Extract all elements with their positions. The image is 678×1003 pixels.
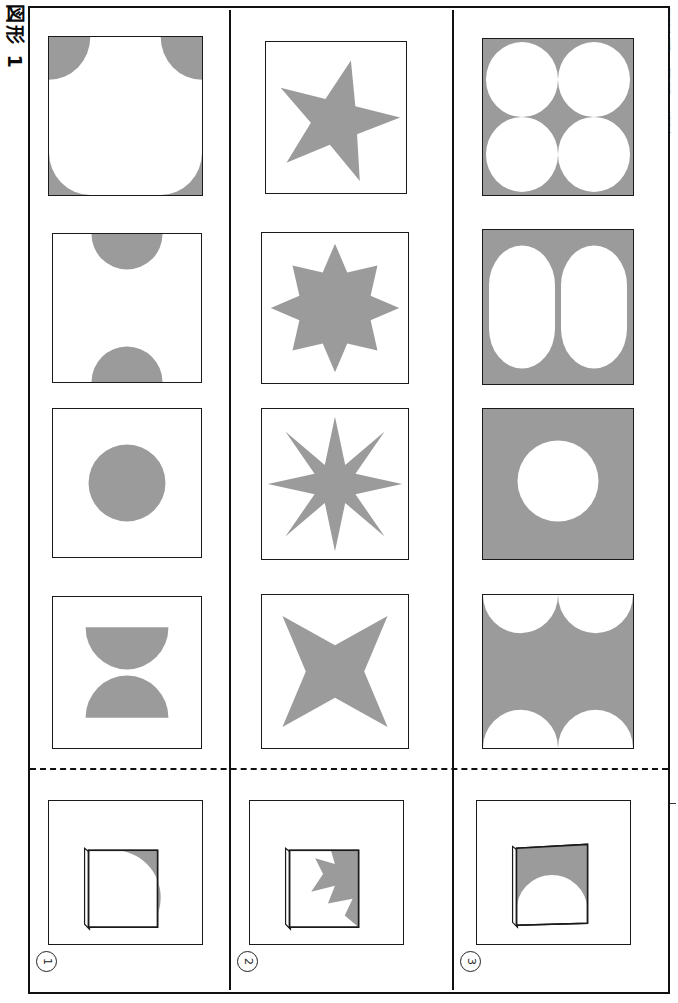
shape-two-half-circles-icon: [53, 234, 201, 382]
shape-two-white-stadiums-icon: [483, 230, 633, 384]
row-number-1: 1: [36, 951, 57, 972]
option-3b[interactable]: [482, 229, 634, 385]
option-1d[interactable]: [52, 596, 202, 749]
shape-hourglass-half-circles-icon: [53, 597, 201, 748]
worksheet-frame: 1: [28, 6, 670, 994]
option-3d[interactable]: [482, 594, 634, 749]
row-number-2: 2: [237, 951, 258, 972]
option-2c[interactable]: [261, 408, 409, 560]
fold-panel-3[interactable]: [476, 800, 631, 945]
row-1: 1: [30, 8, 229, 992]
fold-panel-2[interactable]: [249, 800, 404, 945]
shape-four-white-half-circles-icon: [483, 595, 633, 748]
shape-star-4-point-icon: [262, 595, 408, 748]
row-3: 3: [454, 8, 667, 992]
shape-four-white-circles-icon: [483, 39, 633, 195]
option-1a[interactable]: [48, 36, 203, 196]
option-2a[interactable]: [265, 41, 407, 194]
folded-sheet-3-icon: [477, 801, 630, 944]
option-1c[interactable]: [52, 408, 202, 558]
option-2d[interactable]: [261, 594, 409, 749]
shape-one-white-circle-icon: [483, 409, 633, 559]
folded-sheet-2-icon: [250, 801, 403, 944]
shape-four-corner-quarter-circles-icon: [49, 37, 202, 195]
option-3a[interactable]: [482, 38, 634, 196]
row-number-3: 3: [460, 951, 481, 972]
fold-panel-1[interactable]: [48, 800, 203, 945]
option-2b[interactable]: [261, 232, 409, 384]
shape-star-8-point-icon: [262, 409, 408, 559]
page-title: 図形 1: [5, 4, 24, 70]
shape-star-9-point-icon: [262, 233, 408, 383]
worksheet-title-strip: 図形 1: [0, 4, 28, 194]
shape-centered-circle-icon: [53, 409, 201, 557]
option-1b[interactable]: [52, 233, 202, 383]
folded-sheet-1-icon: [49, 801, 202, 944]
dashed-fold-divider: [30, 768, 668, 770]
option-3c[interactable]: [482, 408, 634, 560]
shape-star-5-point-icon: [266, 42, 406, 193]
row-2: 2: [231, 8, 452, 992]
